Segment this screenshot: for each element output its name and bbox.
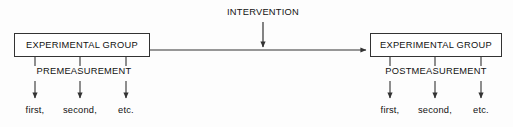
pre-occasion-label-1: first, — [26, 105, 45, 115]
post-occasion-label-3: etc. — [473, 105, 489, 115]
premeasurement-label: PREMEASUREMENT — [37, 66, 132, 76]
post-occasion-label-2: second, — [418, 105, 452, 115]
pre-occasion-label-3: etc. — [118, 105, 134, 115]
experimental-group-post-label: EXPERIMENTAL GROUP — [380, 40, 492, 50]
post-occasion-label-1: first, — [381, 105, 400, 115]
experimental-group-post-box: EXPERIMENTAL GROUP — [370, 33, 502, 57]
intervention-label: INTERVENTION — [227, 7, 299, 17]
experimental-group-pre-label: EXPERIMENTAL GROUP — [26, 40, 138, 50]
pre-occasion-label-2: second, — [63, 105, 97, 115]
postmeasurement-label: POSTMEASUREMENT — [385, 66, 486, 76]
design-diagram: EXPERIMENTAL GROUP EXPERIMENTAL GROUP IN… — [0, 0, 513, 127]
experimental-group-pre-box: EXPERIMENTAL GROUP — [14, 33, 150, 57]
